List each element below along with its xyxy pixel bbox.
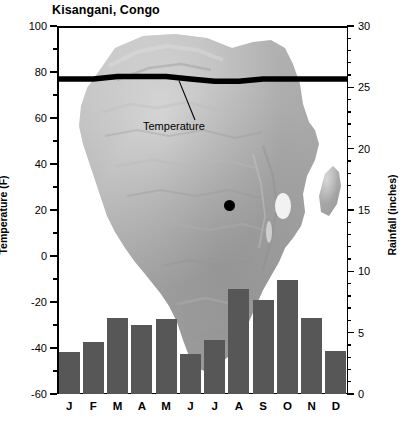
right-tick-label: 20 (358, 143, 370, 155)
right-tick-minor (347, 258, 351, 259)
madagascar (319, 166, 341, 216)
right-tick-major (347, 25, 354, 26)
left-tick-major (50, 117, 57, 118)
left-tick-minor (53, 232, 57, 233)
left-tick-major (50, 347, 57, 348)
right-tick-minor (347, 344, 351, 345)
kisangani-location-dot (224, 200, 235, 211)
temperature-annotation: Temperature (143, 120, 205, 132)
right-tick-major (347, 271, 354, 272)
right-tick-major (347, 332, 354, 333)
month-label: F (90, 400, 97, 412)
right-tick-label: 30 (358, 20, 370, 32)
plot-top-border (57, 26, 348, 28)
right-tick-minor (347, 197, 351, 198)
right-tick-minor (347, 381, 351, 382)
left-tick-major (50, 25, 57, 26)
right-tick-minor (347, 320, 351, 321)
right-tick-minor (347, 234, 351, 235)
right-tick-major (347, 393, 354, 394)
rainfall-bar (131, 325, 152, 394)
right-tick-minor (347, 111, 351, 112)
month-label: A (138, 400, 146, 412)
rainfall-bar (180, 354, 201, 394)
right-tick-minor (347, 62, 351, 63)
month-label: D (332, 400, 340, 412)
left-tick-minor (53, 324, 57, 325)
rainfall-bar (253, 300, 274, 394)
plot-area: 100806040200-20-40-60 302520151050 Tempe… (57, 26, 348, 394)
left-tick-major (50, 255, 57, 256)
right-tick-minor (347, 173, 351, 174)
right-tick-minor (347, 369, 351, 370)
left-tick-minor (53, 186, 57, 187)
month-label: M (113, 400, 123, 412)
right-tick-minor (347, 50, 351, 51)
left-tick-minor (53, 278, 57, 279)
left-tick-major (50, 301, 57, 302)
left-tick-label: 0 (41, 250, 47, 262)
right-axis-title: Rainfall (inches) (386, 174, 398, 255)
rainfall-bar (156, 319, 177, 394)
right-tick-minor (347, 222, 351, 223)
rainfall-bar (301, 318, 322, 394)
right-tick-minor (347, 295, 351, 296)
month-label: S (259, 400, 267, 412)
rainfall-bar (228, 289, 249, 394)
left-tick-major (50, 163, 57, 164)
left-tick-label: -40 (31, 342, 47, 354)
right-tick-minor (347, 307, 351, 308)
left-tick-label: 80 (35, 66, 47, 78)
month-label: J (211, 400, 217, 412)
right-tick-label: 15 (358, 204, 370, 216)
left-axis-spine (57, 26, 59, 394)
left-tick-label: -60 (31, 388, 47, 400)
right-tick-label: 0 (358, 388, 364, 400)
right-tick-label: 25 (358, 81, 370, 93)
month-label: J (187, 400, 193, 412)
right-tick-major (347, 148, 354, 149)
right-tick-minor (347, 185, 351, 186)
left-axis-title: Temperature (F) (0, 175, 9, 254)
rainfall-bar (107, 318, 128, 394)
month-label: A (235, 400, 243, 412)
climate-chart: Kisangani, Congo Temperature (F) Rainfal… (0, 0, 405, 430)
left-tick-minor (53, 140, 57, 141)
right-tick-minor (347, 246, 351, 247)
right-tick-label: 10 (358, 265, 370, 277)
right-tick-minor (347, 99, 351, 100)
left-tick-major (50, 393, 57, 394)
month-label: M (161, 400, 171, 412)
right-tick-major (347, 209, 354, 210)
month-label: N (307, 400, 315, 412)
left-tick-major (50, 209, 57, 210)
right-tick-minor (347, 357, 351, 358)
right-tick-minor (347, 74, 351, 75)
right-tick-major (347, 87, 354, 88)
rainfall-bar (59, 352, 80, 394)
right-tick-minor (347, 160, 351, 161)
right-tick-minor (347, 38, 351, 39)
left-tick-minor (53, 94, 57, 95)
left-tick-label: 100 (29, 20, 47, 32)
month-label: J (66, 400, 72, 412)
left-tick-minor (53, 48, 57, 49)
left-tick-minor (53, 370, 57, 371)
rainfall-bar (204, 340, 225, 394)
left-tick-label: 60 (35, 112, 47, 124)
left-tick-label: -20 (31, 296, 47, 308)
right-tick-minor (347, 283, 351, 284)
right-tick-minor (347, 136, 351, 137)
left-tick-label: 40 (35, 158, 47, 170)
month-label: O (283, 400, 292, 412)
rainfall-bar (83, 342, 104, 394)
rainfall-bar (277, 280, 298, 394)
left-tick-major (50, 71, 57, 72)
right-tick-label: 5 (358, 327, 364, 339)
right-tick-minor (347, 123, 351, 124)
rainfall-bar (325, 351, 346, 394)
left-tick-label: 20 (35, 204, 47, 216)
page-title: Kisangani, Congo (52, 3, 160, 17)
